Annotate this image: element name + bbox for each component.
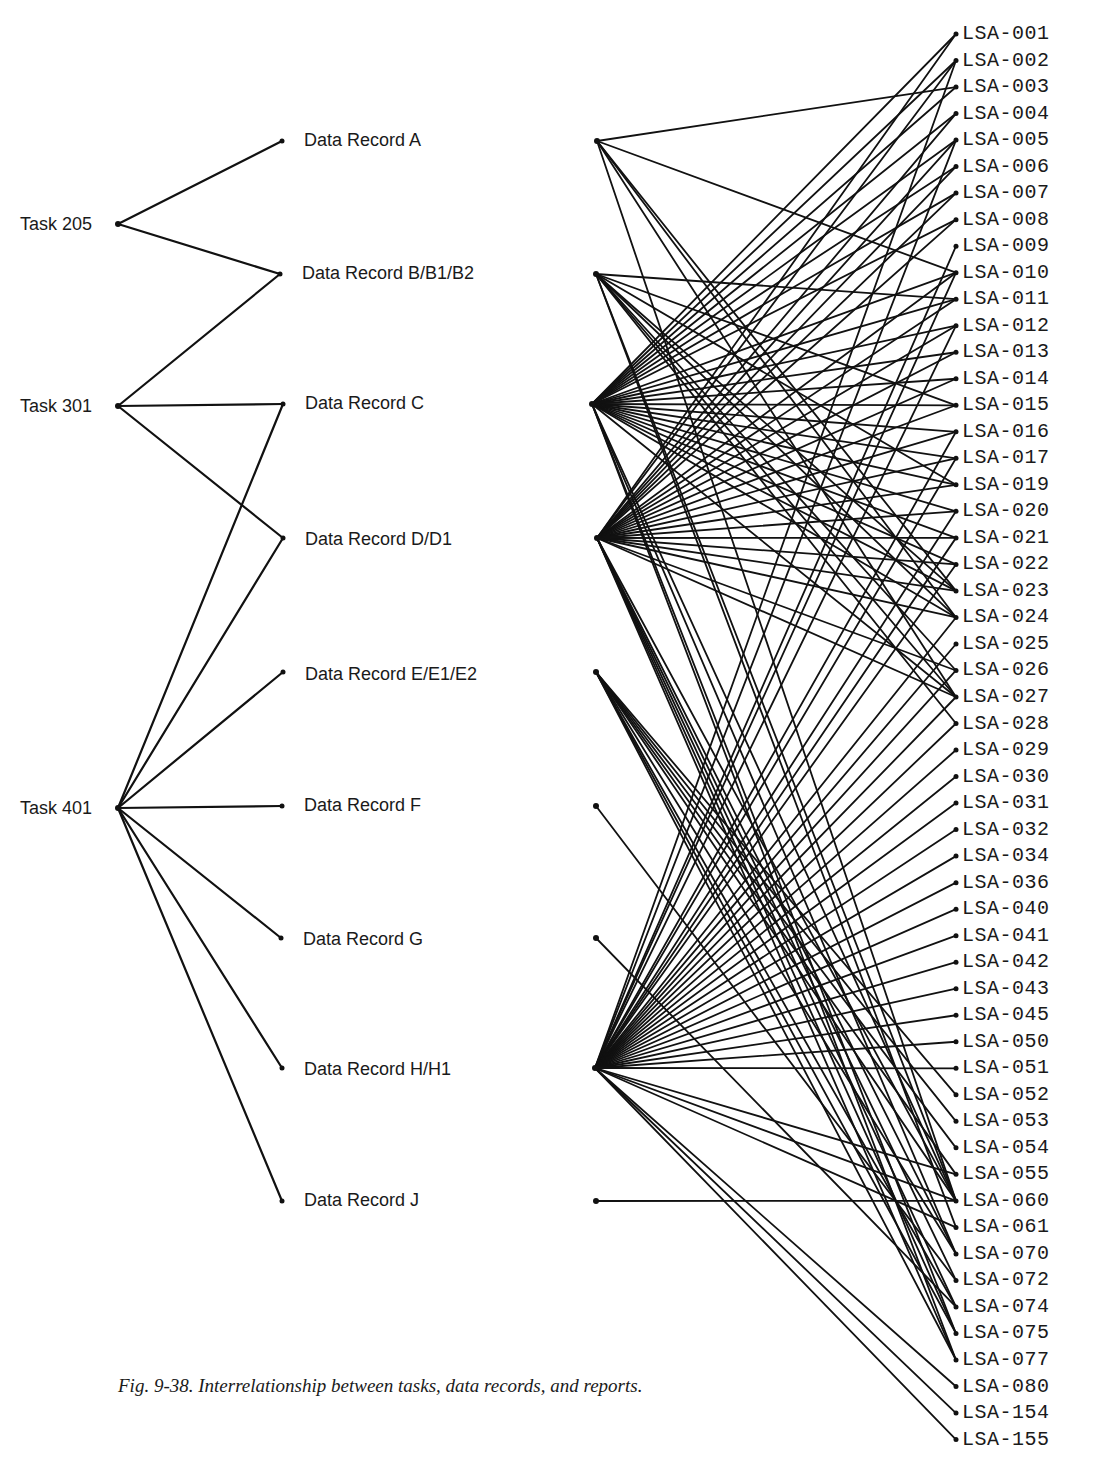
lsa-node-dot: [954, 138, 959, 143]
lsa-node-dot: [954, 748, 959, 753]
lsa-report-label: LSA-055: [962, 1164, 1050, 1184]
lsa-node-dot: [954, 668, 959, 673]
lsa-report-label: LSA-004: [962, 104, 1050, 124]
lsa-node-dot: [954, 58, 959, 63]
lsa-report-label: LSA-015: [962, 395, 1050, 415]
record-left-dot: [279, 936, 284, 941]
lsa-report-label: LSA-045: [962, 1005, 1050, 1025]
lsa-node-dot: [954, 403, 959, 408]
task-node-dot: [115, 221, 121, 227]
lsa-node-dot: [954, 217, 959, 222]
lsa-node-dot: [954, 986, 959, 991]
record-left-dot: [280, 804, 285, 809]
data-record-label: Data Record F: [304, 796, 421, 814]
lsa-node-dot: [954, 1278, 959, 1283]
lsa-node-dot: [954, 907, 959, 912]
record-lsa-edge: [595, 140, 956, 1068]
task-record-edges: [118, 141, 283, 1201]
lsa-node-dot: [954, 244, 959, 249]
lsa-report-label: LSA-042: [962, 952, 1050, 972]
lsa-node-dot: [954, 1039, 959, 1044]
lsa-report-label: LSA-034: [962, 846, 1050, 866]
lsa-report-label: LSA-026: [962, 660, 1050, 680]
lsa-node-dot: [954, 1411, 959, 1416]
lsa-node-dot: [954, 615, 959, 620]
lsa-report-label: LSA-023: [962, 581, 1050, 601]
record-lsa-edge: [595, 1068, 956, 1440]
lsa-report-label: LSA-032: [962, 820, 1050, 840]
lsa-report-label: LSA-041: [962, 926, 1050, 946]
lsa-report-label: LSA-005: [962, 130, 1050, 150]
lsa-report-label: LSA-001: [962, 24, 1050, 44]
lsa-node-dot: [954, 1145, 959, 1150]
lsa-report-label: LSA-008: [962, 210, 1050, 230]
lsa-report-label: LSA-043: [962, 979, 1050, 999]
relationship-diagram: [0, 0, 1099, 1483]
lsa-report-label: LSA-080: [962, 1377, 1050, 1397]
task-record-edge: [118, 274, 280, 406]
lsa-node-dot: [954, 827, 959, 832]
task-node-dot: [115, 805, 121, 811]
record-right-dot: [589, 401, 595, 407]
data-record-label: Data Record C: [305, 394, 424, 412]
task-record-edge: [118, 404, 283, 808]
lsa-report-label: LSA-016: [962, 422, 1050, 442]
lsa-node-dot: [954, 323, 959, 328]
data-record-label: Data Record J: [304, 1191, 419, 1209]
task-label: Task 401: [20, 799, 92, 817]
record-lsa-edge: [595, 1068, 956, 1387]
lsa-node-dot: [954, 376, 959, 381]
lsa-report-label: LSA-155: [962, 1430, 1050, 1450]
lsa-report-label: LSA-003: [962, 77, 1050, 97]
record-right-dot: [594, 138, 600, 144]
lsa-report-label: LSA-070: [962, 1244, 1050, 1264]
lsa-node-dot: [954, 1013, 959, 1018]
task-record-edge: [118, 808, 282, 1068]
lsa-node-dot: [954, 191, 959, 196]
lsa-node-dot: [954, 270, 959, 275]
lsa-node-dot: [954, 1304, 959, 1309]
lsa-node-dot: [954, 297, 959, 302]
lsa-report-label: LSA-020: [962, 501, 1050, 521]
lsa-node-dot: [954, 774, 959, 779]
lsa-node-dot: [954, 960, 959, 965]
record-lsa-edge: [597, 220, 956, 538]
lsa-report-label: LSA-072: [962, 1270, 1050, 1290]
lsa-node-dot: [954, 85, 959, 90]
data-record-label: Data Record B/B1/B2: [302, 264, 474, 282]
lsa-report-label: LSA-007: [962, 183, 1050, 203]
lsa-node-dot: [954, 588, 959, 593]
lsa-report-label: LSA-028: [962, 714, 1050, 734]
task-label: Task 301: [20, 397, 92, 415]
lsa-node-dot: [954, 482, 959, 487]
record-lsa-edge: [595, 511, 956, 1068]
lsa-report-label: LSA-025: [962, 634, 1050, 654]
record-right-dot: [593, 803, 599, 809]
lsa-report-label: LSA-050: [962, 1032, 1050, 1052]
record-lsa-edge: [595, 777, 956, 1068]
lsa-node-dot: [954, 695, 959, 700]
data-record-label: Data Record G: [303, 930, 423, 948]
lsa-report-label: LSA-054: [962, 1138, 1050, 1158]
lsa-report-label: LSA-030: [962, 767, 1050, 787]
record-lsa-edge: [597, 485, 956, 538]
lsa-node-dot: [954, 1437, 959, 1442]
record-left-dot: [280, 1066, 285, 1071]
lsa-report-label: LSA-074: [962, 1297, 1050, 1317]
lsa-report-label: LSA-013: [962, 342, 1050, 362]
lsa-report-label: LSA-019: [962, 475, 1050, 495]
lsa-node-dot: [954, 111, 959, 116]
lsa-report-label: LSA-014: [962, 369, 1050, 389]
task-record-edge: [118, 806, 282, 808]
lsa-report-label: LSA-011: [962, 289, 1050, 309]
lsa-report-label: LSA-061: [962, 1217, 1050, 1237]
lsa-node-dot: [954, 1225, 959, 1230]
lsa-report-label: LSA-075: [962, 1323, 1050, 1343]
data-record-label: Data Record D/D1: [305, 530, 452, 548]
record-lsa-edge: [595, 670, 956, 1068]
task-record-edge: [118, 404, 283, 406]
lsa-report-label: LSA-012: [962, 316, 1050, 336]
record-lsa-edge: [595, 644, 956, 1068]
lsa-node-dot: [954, 1119, 959, 1124]
lsa-report-label: LSA-051: [962, 1058, 1050, 1078]
